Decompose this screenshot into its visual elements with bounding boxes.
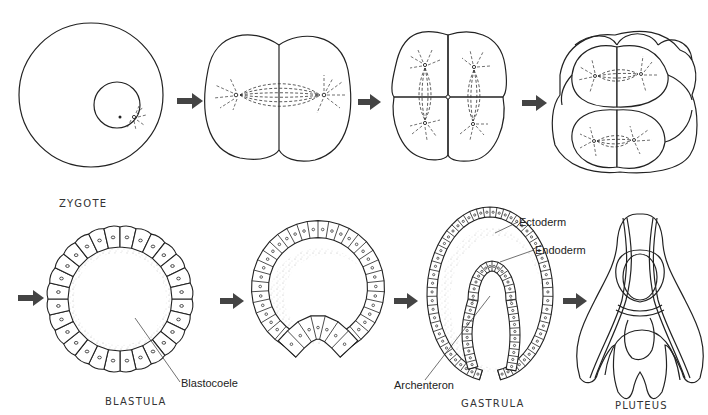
cell-nucleus bbox=[513, 316, 515, 318]
cell-nucleus bbox=[125, 236, 129, 239]
cell-nucleus bbox=[259, 295, 262, 298]
cell-nucleus bbox=[151, 350, 155, 353]
cell-nucleus bbox=[171, 265, 175, 268]
cell-nucleus bbox=[85, 350, 89, 353]
annotation-ectoderm: Ectoderm bbox=[519, 216, 566, 228]
cell-nucleus bbox=[547, 300, 549, 302]
two-cell-right-centrosome bbox=[322, 93, 326, 97]
cell-nucleus bbox=[151, 245, 155, 248]
cell-nucleus bbox=[512, 309, 514, 311]
cell-nucleus bbox=[431, 300, 433, 302]
cell-nucleus bbox=[457, 225, 459, 227]
cell-nucleus bbox=[471, 371, 473, 373]
cell-nucleus bbox=[436, 325, 438, 327]
cell-nucleus bbox=[460, 364, 462, 366]
cell-nucleus bbox=[348, 237, 351, 240]
gastrula-ectoderm-cell-wall bbox=[543, 287, 553, 288]
two-cell-drawing bbox=[205, 35, 351, 161]
cell-nucleus bbox=[278, 243, 281, 246]
arrow-icon bbox=[522, 95, 547, 111]
stage-label-zygote: ZYGOTE bbox=[59, 198, 107, 209]
cell-nucleus bbox=[481, 270, 483, 272]
cell-nucleus bbox=[510, 217, 512, 219]
cell-nucleus bbox=[334, 334, 337, 337]
cell-nucleus bbox=[266, 258, 269, 261]
cell-nucleus bbox=[542, 325, 544, 327]
cell-nucleus bbox=[111, 359, 115, 362]
zygote-drawing bbox=[19, 23, 163, 167]
zygote-cell-membrane bbox=[19, 23, 163, 167]
cell-nucleus bbox=[98, 239, 102, 242]
gastrula-ectoderm-cell-wall bbox=[427, 287, 437, 288]
cell-nucleus bbox=[367, 258, 370, 261]
cell-nucleus bbox=[486, 211, 488, 213]
cell-nucleus bbox=[462, 220, 464, 222]
four-cell-blastomere-top-left bbox=[392, 32, 448, 97]
cell-nucleus bbox=[468, 316, 470, 318]
cell-nucleus bbox=[437, 257, 439, 259]
cell-nucleus bbox=[504, 214, 506, 216]
cell-nucleus bbox=[57, 305, 61, 308]
cell-nucleus bbox=[513, 323, 515, 325]
cell-nucleus bbox=[177, 318, 181, 321]
cell-nucleus bbox=[452, 230, 454, 232]
cell-nucleus bbox=[434, 265, 436, 267]
diagram-canvas: ZYGOTE bbox=[0, 0, 708, 415]
zygote-nucleus bbox=[94, 82, 140, 128]
cell-nucleus bbox=[445, 347, 447, 349]
cell-nucleus bbox=[545, 274, 547, 276]
cell-nucleus bbox=[74, 254, 78, 257]
cell-nucleus bbox=[261, 304, 264, 307]
cell-nucleus bbox=[431, 291, 433, 293]
pluteus-stomach-inner bbox=[623, 254, 657, 300]
cell-nucleus bbox=[74, 341, 78, 344]
cell-nucleus bbox=[518, 364, 520, 366]
cell-nucleus bbox=[514, 330, 516, 332]
cell-nucleus bbox=[532, 347, 534, 349]
cell-nucleus bbox=[454, 359, 456, 361]
cell-nucleus bbox=[440, 250, 442, 252]
cell-nucleus bbox=[492, 211, 494, 213]
cell-nucleus bbox=[272, 250, 275, 253]
cell-nucleus bbox=[60, 277, 64, 280]
cell-nucleus bbox=[509, 288, 511, 290]
cell-nucleus bbox=[276, 328, 279, 331]
cell-nucleus bbox=[98, 356, 102, 359]
cell-nucleus bbox=[431, 282, 433, 284]
cell-nucleus bbox=[343, 343, 346, 346]
cell-nucleus bbox=[513, 344, 515, 346]
gastrula-endoderm-cell-wall bbox=[510, 342, 520, 343]
cell-nucleus bbox=[374, 295, 377, 298]
cell-nucleus bbox=[373, 276, 376, 279]
four-cell-center bbox=[446, 95, 450, 99]
development-diagram: ZYGOTE bbox=[0, 0, 708, 415]
cell-nucleus bbox=[355, 243, 358, 246]
cell-nucleus bbox=[443, 242, 445, 244]
cell-nucleus bbox=[371, 267, 374, 270]
cell-nucleus bbox=[180, 305, 184, 308]
arrow-icon bbox=[358, 94, 381, 110]
cell-nucleus bbox=[60, 318, 64, 321]
cell-nucleus bbox=[358, 328, 361, 331]
two-cell-spindle bbox=[240, 84, 320, 107]
cell-nucleus bbox=[466, 330, 468, 332]
annotation-endoderm: Endoderm bbox=[535, 244, 586, 256]
blastula-drawing bbox=[47, 226, 193, 372]
cell-nucleus bbox=[536, 340, 538, 342]
cell-nucleus bbox=[303, 230, 306, 233]
cell-nucleus bbox=[474, 214, 476, 216]
cell-nucleus bbox=[270, 321, 273, 324]
cell-nucleus bbox=[433, 274, 435, 276]
cell-nucleus bbox=[478, 275, 480, 277]
cell-nucleus bbox=[466, 336, 468, 338]
cell-nucleus bbox=[139, 239, 143, 242]
cell-nucleus bbox=[139, 356, 143, 359]
cell-nucleus bbox=[480, 212, 482, 214]
cell-nucleus bbox=[526, 230, 528, 232]
blastocoele-cavity bbox=[74, 253, 166, 345]
cell-nucleus bbox=[290, 343, 293, 346]
cell-nucleus bbox=[326, 328, 329, 331]
cell-nucleus bbox=[265, 313, 268, 316]
cell-nucleus bbox=[312, 228, 315, 231]
cell-nucleus bbox=[510, 295, 512, 297]
